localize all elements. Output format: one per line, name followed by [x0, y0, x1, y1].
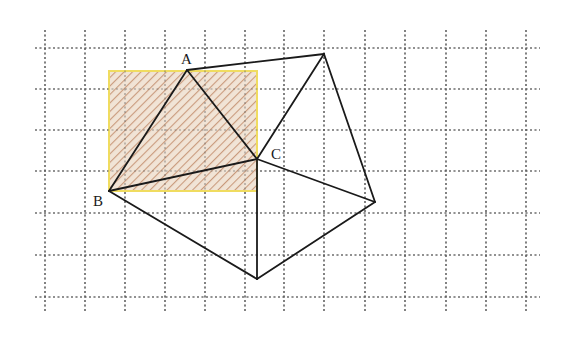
edge-AD — [187, 54, 324, 70]
geometry-diagram — [0, 0, 565, 337]
edge-CE — [257, 159, 375, 202]
edge-FB — [109, 191, 257, 279]
label-c: C — [271, 147, 281, 162]
label-a: A — [181, 52, 192, 67]
edge-DE — [324, 54, 375, 202]
edge-DC — [257, 54, 324, 159]
label-b: B — [93, 194, 103, 209]
